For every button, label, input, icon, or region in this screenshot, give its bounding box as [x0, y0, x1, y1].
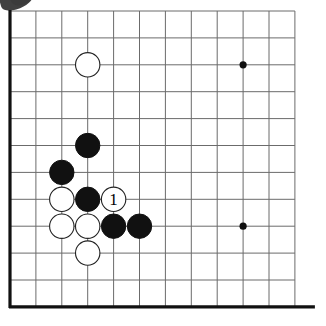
- star-point-upper-right: [240, 61, 247, 68]
- white-stone-c3-r9[interactable]: [76, 241, 100, 265]
- black-stone-c2-r6[interactable]: [50, 160, 74, 184]
- go-board-diagram: 1: [0, 0, 326, 326]
- black-stone-c3-r5[interactable]: [76, 133, 100, 157]
- white-stone-c3-r8[interactable]: [76, 214, 100, 238]
- stones-layer: [50, 53, 152, 266]
- star-point-lower-right: [240, 223, 247, 230]
- white-stone-c2-r7[interactable]: [50, 187, 74, 211]
- white-stone-c2-r8[interactable]: [50, 214, 74, 238]
- white-stone-c3-r2[interactable]: [76, 53, 100, 77]
- black-stone-c5-r8[interactable]: [127, 214, 151, 238]
- go-board-grid: [0, 0, 326, 326]
- black-stone-c3-r7[interactable]: [76, 187, 100, 211]
- white-stone-move-1[interactable]: [101, 187, 125, 211]
- grid-lines: [10, 11, 295, 307]
- black-stone-c4-r8[interactable]: [101, 214, 125, 238]
